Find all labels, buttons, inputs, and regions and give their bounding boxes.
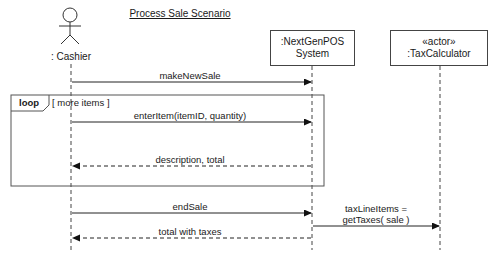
system-label-line2: System [271, 48, 354, 60]
cashier-actor-icon [59, 8, 81, 44]
loop-guard: [ more items ] [52, 97, 110, 108]
msg-endSale-label: endSale [120, 201, 260, 212]
msg-description-total-label: description, total [120, 154, 260, 165]
msg-getTaxes-label-line2: getTaxes( sale ) [326, 214, 426, 225]
system-participant-box: :NextGenPOS System [270, 30, 355, 66]
msg-total-with-taxes-label: total with taxes [120, 226, 260, 237]
tax-label: :TaxCalculator [391, 48, 487, 60]
msg-enterItem-label: enterItem(itemID, quantity) [110, 110, 270, 121]
cashier-label: : Cashier [36, 51, 106, 62]
msg-makeNewSale-label: makeNewSale [120, 70, 260, 81]
system-label-line1: :NextGenPOS [271, 36, 354, 48]
tax-participant-box: «actor» :TaxCalculator [390, 30, 488, 66]
tax-stereotype: «actor» [391, 36, 487, 48]
msg-getTaxes-label-line1: taxLineItems = [326, 203, 426, 214]
msg-getTaxes-label: taxLineItems = getTaxes( sale ) [326, 203, 426, 225]
diagram-title: Process Sale Scenario [110, 8, 250, 19]
